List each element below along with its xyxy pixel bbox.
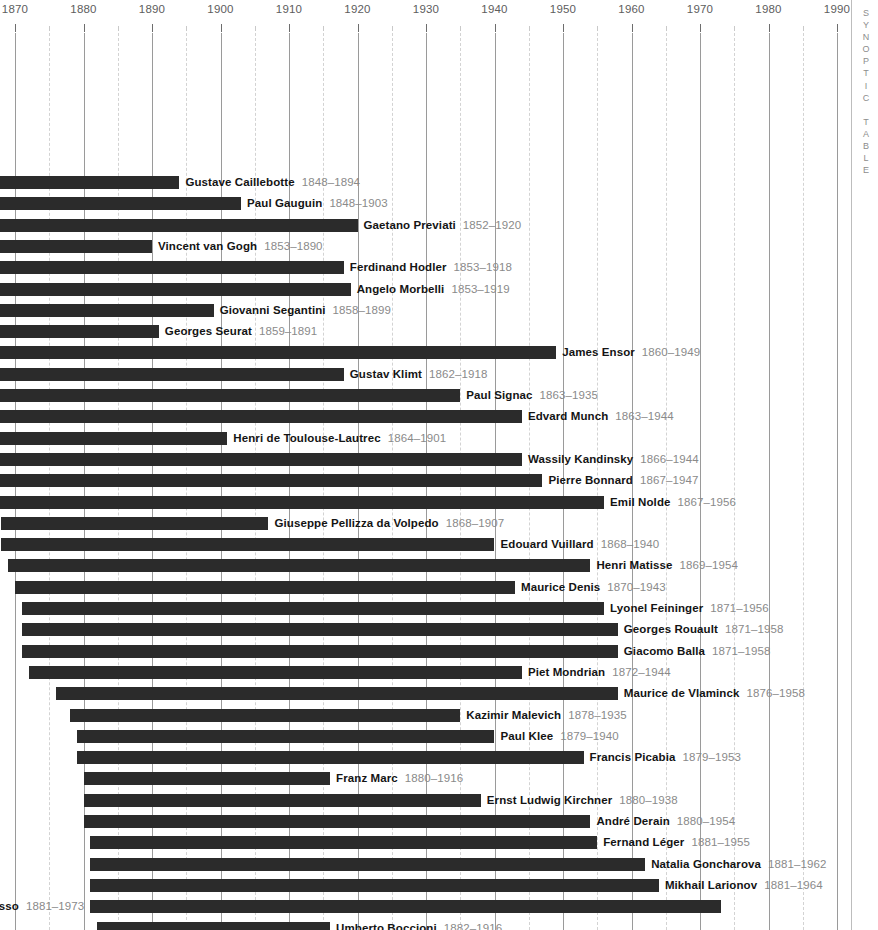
timeline-row[interactable]: Gustav Klimt1862–1918 xyxy=(0,368,878,381)
lifespan-bar[interactable] xyxy=(0,346,556,359)
timeline-row[interactable]: Wassily Kandinsky1866–1944 xyxy=(0,453,878,466)
lifespan-bar[interactable] xyxy=(77,751,584,764)
timeline-row[interactable]: Ferdinand Hodler1853–1918 xyxy=(0,261,878,274)
lifespan-bar[interactable] xyxy=(0,283,351,296)
timeline-row[interactable]: Umberto Boccioni1882–1916 xyxy=(0,922,878,930)
timeline-row[interactable]: Lyonel Feininger1871–1956 xyxy=(0,602,878,615)
lifespan-bar[interactable] xyxy=(0,474,542,487)
artist-label: Giovanni Segantini1858–1899 xyxy=(220,304,391,317)
artist-name: Paul Signac xyxy=(466,389,532,401)
lifespan-bar[interactable] xyxy=(90,879,659,892)
lifespan-bar[interactable] xyxy=(0,432,227,445)
timeline-row[interactable]: Pablo Picasso1881–1973 xyxy=(0,900,878,913)
artist-dates: 1881–1973 xyxy=(26,900,84,912)
axis-tick-label-1900: 1900 xyxy=(207,3,233,15)
lifespan-bar[interactable] xyxy=(90,858,645,871)
lifespan-bar[interactable] xyxy=(8,559,590,572)
lifespan-bar[interactable] xyxy=(0,304,214,317)
artist-dates: 1881–1962 xyxy=(768,858,826,870)
timeline-row[interactable]: Georges Seurat1859–1891 xyxy=(0,325,878,338)
timeline-row[interactable]: Kazimir Malevich1878–1935 xyxy=(0,709,878,722)
timeline-row[interactable]: Gustave Caillebotte1848–1894 xyxy=(0,176,878,189)
timeline-row[interactable]: Maurice de Vlaminck1876–1958 xyxy=(0,687,878,700)
lifespan-bar[interactable] xyxy=(0,410,522,423)
artist-dates: 1876–1958 xyxy=(746,687,804,699)
lifespan-bar[interactable] xyxy=(84,772,331,785)
axis-tick-label-1880: 1880 xyxy=(70,3,96,15)
artist-name: Fernand Léger xyxy=(603,836,684,848)
synoptic-table-page: 1870188018901900191019201930194019501960… xyxy=(0,0,878,930)
lifespan-bar[interactable] xyxy=(0,176,179,189)
axis-tick-1900 xyxy=(221,24,222,32)
timeline-row[interactable]: Fernand Léger1881–1955 xyxy=(0,836,878,849)
lifespan-bar[interactable] xyxy=(0,240,152,253)
lifespan-bar[interactable] xyxy=(0,325,159,338)
timeline-row[interactable]: Ernst Ludwig Kirchner1880–1938 xyxy=(0,794,878,807)
timeline-row[interactable]: Edouard Vuillard1868–1940 xyxy=(0,538,878,551)
artist-label: Giacomo Balla1871–1958 xyxy=(624,645,771,658)
axis-minor-tick-1925 xyxy=(392,26,393,31)
timeline-row[interactable]: Gaetano Previati1852–1920 xyxy=(0,219,878,232)
lifespan-bar[interactable] xyxy=(22,602,604,615)
lifespan-bar[interactable] xyxy=(84,815,591,828)
timeline-row[interactable]: Franz Marc1880–1916 xyxy=(0,772,878,785)
lifespan-bar[interactable] xyxy=(0,389,460,402)
lifespan-bar[interactable] xyxy=(0,261,344,274)
lifespan-bar[interactable] xyxy=(0,496,604,509)
lifespan-bar[interactable] xyxy=(0,453,522,466)
timeline-row[interactable]: James Ensor1860–1949 xyxy=(0,346,878,359)
axis-tick-1890 xyxy=(152,24,153,32)
timeline-row[interactable]: Natalia Goncharova1881–1962 xyxy=(0,858,878,871)
artist-label: Pierre Bonnard1867–1947 xyxy=(548,474,698,487)
timeline-row[interactable]: Edvard Munch1863–1944 xyxy=(0,410,878,423)
timeline-row[interactable]: André Derain1880–1954 xyxy=(0,815,878,828)
artist-name: Angelo Morbelli xyxy=(357,283,445,295)
artist-label: André Derain1880–1954 xyxy=(596,815,735,828)
lifespan-bar[interactable] xyxy=(84,794,481,807)
lifespan-bar[interactable] xyxy=(22,645,618,658)
timeline-row[interactable]: Paul Signac1863–1935 xyxy=(0,389,878,402)
timeline-row[interactable]: Paul Klee1879–1940 xyxy=(0,730,878,743)
artist-label: Henri Matisse1869–1954 xyxy=(596,559,738,572)
timeline-row[interactable]: Piet Mondrian1872–1944 xyxy=(0,666,878,679)
lifespan-bar[interactable] xyxy=(90,836,597,849)
timeline-row[interactable]: Pierre Bonnard1867–1947 xyxy=(0,474,878,487)
timeline-row[interactable]: Mikhail Larionov1881–1964 xyxy=(0,879,878,892)
timeline-row[interactable]: Henri de Toulouse-Lautrec1864–1901 xyxy=(0,432,878,445)
lifespan-bar[interactable] xyxy=(22,623,618,636)
timeline-row[interactable]: Giuseppe Pellizza da Volpedo1868–1907 xyxy=(0,517,878,530)
lifespan-bar[interactable] xyxy=(0,197,241,210)
timeline-row[interactable]: Georges Rouault1871–1958 xyxy=(0,623,878,636)
axis-minor-tick-1885 xyxy=(118,26,119,31)
lifespan-bar[interactable] xyxy=(56,687,618,700)
axis-tick-label-1920: 1920 xyxy=(344,3,370,15)
lifespan-bar[interactable] xyxy=(15,581,515,594)
artist-name: Mikhail Larionov xyxy=(665,879,757,891)
timeline-row[interactable]: Francis Picabia1879–1953 xyxy=(0,751,878,764)
timeline-row[interactable]: Paul Gauguin1848–1903 xyxy=(0,197,878,210)
timeline-row[interactable]: Giovanni Segantini1858–1899 xyxy=(0,304,878,317)
lifespan-bar[interactable] xyxy=(1,517,268,530)
artist-label: Paul Klee1879–1940 xyxy=(501,730,619,743)
lifespan-bar[interactable] xyxy=(0,368,344,381)
axis-tick-label-1930: 1930 xyxy=(413,3,439,15)
axis-tick-label-1950: 1950 xyxy=(550,3,576,15)
lifespan-bar[interactable] xyxy=(70,709,460,722)
axis-tick-label-1970: 1970 xyxy=(687,3,713,15)
timeline-row[interactable]: Henri Matisse1869–1954 xyxy=(0,559,878,572)
timeline-row[interactable]: Maurice Denis1870–1943 xyxy=(0,581,878,594)
lifespan-bar[interactable] xyxy=(97,922,330,930)
lifespan-bar[interactable] xyxy=(1,538,494,551)
timeline-row[interactable]: Angelo Morbelli1853–1919 xyxy=(0,283,878,296)
lifespan-bar[interactable] xyxy=(0,219,358,232)
timeline-row[interactable]: Vincent van Gogh1853–1890 xyxy=(0,240,878,253)
artist-name: James Ensor xyxy=(562,346,635,358)
lifespan-bar[interactable] xyxy=(77,730,495,743)
lifespan-bar[interactable] xyxy=(90,900,720,913)
timeline-row[interactable]: Giacomo Balla1871–1958 xyxy=(0,645,878,658)
lifespan-bar[interactable] xyxy=(29,666,522,679)
artist-dates: 1868–1907 xyxy=(446,517,504,529)
timeline-row[interactable]: Emil Nolde1867–1956 xyxy=(0,496,878,509)
artist-label: Francis Picabia1879–1953 xyxy=(590,751,741,764)
artist-label: Maurice Denis1870–1943 xyxy=(521,581,666,594)
